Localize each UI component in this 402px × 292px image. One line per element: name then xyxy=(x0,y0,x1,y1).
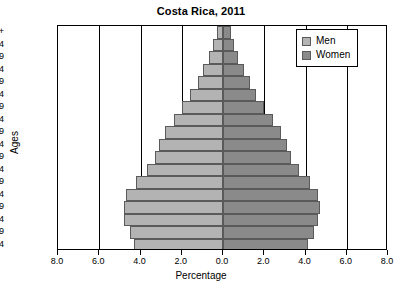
bar-men xyxy=(213,39,223,52)
x-tick xyxy=(98,250,99,255)
bar-men xyxy=(165,126,223,139)
bar-men xyxy=(203,64,223,77)
x-tick-label: 6.0 xyxy=(78,256,118,266)
y-tick-label: 0–4 xyxy=(0,239,4,249)
pyramid-row xyxy=(58,226,386,239)
chart-title: Costa Rica, 2011 xyxy=(0,5,402,17)
legend-item-men: Men xyxy=(302,34,350,48)
bar-men xyxy=(198,76,223,89)
bar-women xyxy=(223,239,308,251)
bar-women xyxy=(223,176,310,189)
x-tick xyxy=(140,250,141,255)
bar-men xyxy=(134,239,223,251)
bar-men xyxy=(130,226,223,239)
x-tick-label: 2.0 xyxy=(243,256,283,266)
bar-women xyxy=(223,114,273,127)
bar-men xyxy=(126,189,223,202)
bar-men xyxy=(147,164,223,177)
pyramid-row xyxy=(58,164,386,177)
population-pyramid-figure: Costa Rica, 2011 8.06.04.02.00.02.04.06.… xyxy=(0,0,402,292)
pyramid-row xyxy=(58,114,386,127)
legend-label-women: Women xyxy=(316,50,350,60)
bar-women xyxy=(223,151,291,164)
y-tick-label: 20–24 xyxy=(0,189,4,199)
bar-women xyxy=(223,226,314,239)
bar-men xyxy=(124,214,223,227)
bar-women xyxy=(223,201,320,214)
x-tick xyxy=(181,250,182,255)
pyramid-row xyxy=(58,139,386,152)
pyramid-row xyxy=(58,89,386,102)
x-tick-label: 4.0 xyxy=(120,256,160,266)
bar-women xyxy=(223,51,238,64)
y-tick-label: 25–29 xyxy=(0,176,4,186)
x-tick xyxy=(305,250,306,255)
bar-men xyxy=(182,101,223,114)
bar-women xyxy=(223,126,281,139)
x-tick xyxy=(57,250,58,255)
pyramid-row xyxy=(58,151,386,164)
y-tick-label: 10–14 xyxy=(0,214,4,224)
x-tick-label: 4.0 xyxy=(285,256,325,266)
x-tick-label: 2.0 xyxy=(161,256,201,266)
y-tick-label: 70–74 xyxy=(0,64,4,74)
y-tick-label: 5–9 xyxy=(0,226,4,236)
y-tick-label: 55–59 xyxy=(0,101,4,111)
legend-swatch-men-icon xyxy=(302,37,311,46)
bar-women xyxy=(223,189,318,202)
y-tick-label: 85+ xyxy=(0,26,4,36)
x-tick-label: 8.0 xyxy=(367,256,402,266)
bar-women xyxy=(223,101,264,114)
bar-men xyxy=(124,201,223,214)
y-tick-label: 45–49 xyxy=(0,126,4,136)
bar-women xyxy=(223,39,234,52)
y-tick-label: 30–34 xyxy=(0,164,4,174)
chart-legend: Men Women xyxy=(296,29,358,67)
pyramid-row xyxy=(58,176,386,189)
pyramid-row xyxy=(58,189,386,202)
x-axis-title: Percentage xyxy=(0,270,402,281)
pyramid-row xyxy=(58,201,386,214)
y-tick-label: 60–64 xyxy=(0,89,4,99)
bar-women xyxy=(223,64,244,77)
pyramid-row xyxy=(58,76,386,89)
bar-men xyxy=(136,176,223,189)
pyramid-row xyxy=(58,101,386,114)
bar-women xyxy=(223,89,256,102)
y-tick-label: 75–79 xyxy=(0,51,4,61)
legend-item-women: Women xyxy=(302,48,350,62)
x-tick-label: 8.0 xyxy=(37,256,77,266)
bar-women xyxy=(223,214,318,227)
x-tick-label: 0.0 xyxy=(202,256,242,266)
y-tick-label: 80–84 xyxy=(0,39,4,49)
x-tick xyxy=(387,250,388,255)
x-tick xyxy=(346,250,347,255)
legend-swatch-women-icon xyxy=(302,51,311,60)
x-tick-label: 6.0 xyxy=(326,256,366,266)
y-tick-label: 15–19 xyxy=(0,201,4,211)
bar-women xyxy=(223,164,299,177)
bar-men xyxy=(155,151,223,164)
pyramid-row xyxy=(58,214,386,227)
bar-men xyxy=(190,89,223,102)
y-tick-label: 35–39 xyxy=(0,151,4,161)
bar-men xyxy=(209,51,223,64)
bar-men xyxy=(174,114,224,127)
y-tick-label: 40–44 xyxy=(0,139,4,149)
bar-women xyxy=(223,76,250,89)
x-tick xyxy=(222,250,223,255)
legend-label-men: Men xyxy=(316,36,335,46)
bar-women xyxy=(223,139,287,152)
pyramid-row xyxy=(58,126,386,139)
y-tick-label: 65–69 xyxy=(0,76,4,86)
x-tick xyxy=(263,250,264,255)
y-tick-label: 50–54 xyxy=(0,114,4,124)
bar-men xyxy=(159,139,223,152)
y-axis-title: Ages xyxy=(9,113,20,173)
bar-women xyxy=(223,26,231,39)
pyramid-row xyxy=(58,239,386,251)
